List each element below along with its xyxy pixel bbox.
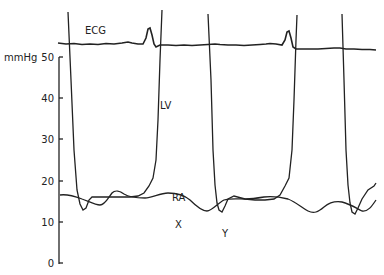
lv-label: LV	[160, 100, 171, 111]
y-axis	[59, 57, 63, 264]
y-tick-10: 10	[41, 217, 54, 228]
y-tick-50: 50	[41, 52, 54, 63]
ecg-label: ECG	[85, 25, 106, 36]
y-tick-20: 20	[41, 176, 54, 187]
y-tick-30: 30	[41, 134, 54, 145]
pressure-chart: 50 40 30 20 10 0 mmHg ECG LV RA X Y	[0, 0, 384, 275]
x-descent-label: X	[175, 219, 182, 230]
ra-label: RA	[172, 192, 186, 203]
y-tick-40: 40	[41, 93, 54, 104]
y-descent-label: Y	[221, 228, 229, 239]
y-axis-unit: mmHg	[4, 52, 37, 63]
lv-trace	[68, 10, 376, 214]
y-tick-0: 0	[48, 258, 54, 269]
ra-trace	[60, 191, 376, 212]
